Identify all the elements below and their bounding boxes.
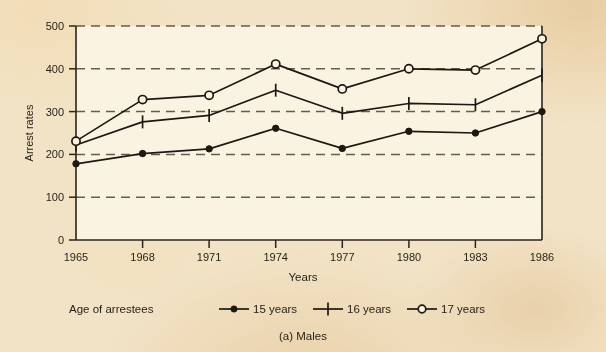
data-point-filled-circle xyxy=(339,145,345,151)
data-point-open-circle xyxy=(72,137,80,145)
x-tick-label-1965: 1965 xyxy=(64,251,88,263)
x-tick-label-1986: 1986 xyxy=(530,251,554,263)
chart-figure: 500 400 300 200 100 0 1965 1968 1971 197… xyxy=(0,0,606,352)
data-point-filled-circle xyxy=(406,128,412,134)
legend-title: Age of arrestees xyxy=(69,303,154,315)
y-axis-ticks xyxy=(69,26,76,240)
y-axis-title: Arrest rates xyxy=(23,104,35,161)
legend-entry-16-years: 16 years xyxy=(313,303,391,316)
data-point-filled-circle xyxy=(206,146,212,152)
x-tick-label-1980: 1980 xyxy=(397,251,421,263)
arrest-rates-line-chart: 500 400 300 200 100 0 1965 1968 1971 197… xyxy=(0,0,606,352)
legend-label-16-years: 16 years xyxy=(347,303,391,315)
x-axis-ticks xyxy=(143,240,476,248)
data-point-open-circle xyxy=(272,60,280,68)
figure-caption: (a) Males xyxy=(279,330,327,342)
data-point-open-circle xyxy=(338,85,346,93)
data-point-open-circle xyxy=(405,65,413,73)
legend-label-15-years: 15 years xyxy=(253,303,297,315)
x-tick-label-1983: 1983 xyxy=(463,251,487,263)
filled-circle-icon xyxy=(231,306,237,312)
open-circle-icon xyxy=(418,305,426,313)
x-tick-label-1971: 1971 xyxy=(197,251,221,263)
y-tick-label-300: 300 xyxy=(46,106,64,118)
y-tick-label-100: 100 xyxy=(46,191,64,203)
y-tick-label-400: 400 xyxy=(46,63,64,75)
x-tick-label-1968: 1968 xyxy=(130,251,154,263)
data-point-open-circle xyxy=(205,91,213,99)
legend-entry-17-years: 17 years xyxy=(407,303,485,315)
data-point-filled-circle xyxy=(539,108,545,114)
data-point-open-circle xyxy=(138,96,146,104)
legend-entry-15-years: 15 years xyxy=(219,303,297,315)
y-tick-label-0: 0 xyxy=(58,234,64,246)
data-point-open-circle xyxy=(471,66,479,74)
y-axis-tick-labels: 500 400 300 200 100 0 xyxy=(46,20,64,246)
data-point-filled-circle xyxy=(472,130,478,136)
x-axis-title: Years xyxy=(289,271,318,283)
x-axis-tick-labels: 1965 1968 1971 1974 1977 1980 1983 1986 xyxy=(64,251,554,263)
y-tick-label-500: 500 xyxy=(46,20,64,32)
chart-legend: Age of arrestees 15 years 16 years 17 ye… xyxy=(69,303,485,316)
legend-label-17-years: 17 years xyxy=(441,303,485,315)
x-tick-label-1974: 1974 xyxy=(263,251,287,263)
data-point-open-circle xyxy=(538,35,546,43)
data-point-filled-circle xyxy=(139,150,145,156)
data-point-filled-circle xyxy=(73,161,79,167)
y-tick-label-200: 200 xyxy=(46,148,64,160)
x-tick-label-1977: 1977 xyxy=(330,251,354,263)
data-point-filled-circle xyxy=(273,125,279,131)
